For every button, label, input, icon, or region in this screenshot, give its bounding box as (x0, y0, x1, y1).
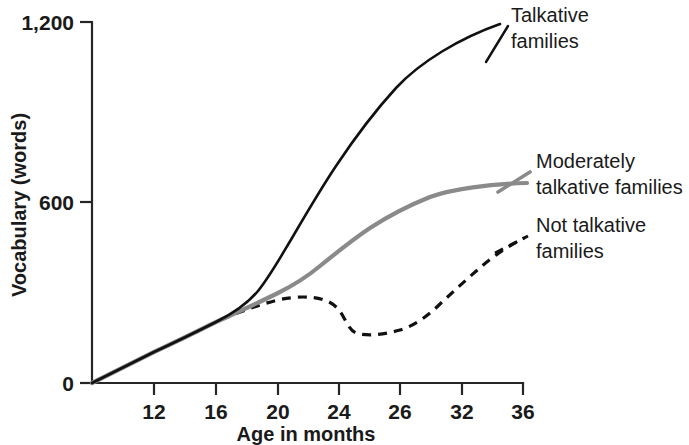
x-tick-label-26: 26 (388, 400, 411, 423)
series-label-not-talkative-line2: families (536, 240, 604, 262)
series-label-moderately-talkative-line1: Moderately (536, 150, 635, 172)
chart-axes (80, 22, 523, 395)
y-tick-label-1200: 1,200 (21, 11, 74, 34)
x-tick-label-16: 16 (204, 400, 227, 423)
x-tick-label-36: 36 (511, 400, 534, 423)
series-labels: Talkative families Moderately talkative … (511, 4, 683, 262)
series-leader-lines (486, 26, 530, 253)
x-tick-label-32: 32 (450, 400, 473, 423)
x-tick-label-20: 20 (266, 400, 289, 423)
line-chart: 1,200 600 0 12 16 20 24 26 32 36 Age in … (0, 0, 689, 445)
series-label-not-talkative-line1: Not talkative (536, 214, 646, 236)
series-label-talkative-line2: families (511, 30, 579, 52)
series-label-moderately-talkative-line2: talkative families (536, 176, 683, 198)
y-tick-label-600: 600 (39, 191, 74, 214)
series-line-talkative (92, 24, 500, 383)
chart-series-group (92, 24, 527, 383)
x-tick-label-12: 12 (142, 400, 165, 423)
x-tick-label-24: 24 (327, 400, 351, 423)
x-axis-title: Age in months (237, 423, 376, 445)
series-label-talkative-line1: Talkative (511, 4, 589, 26)
x-axis-tick-labels: 12 16 20 24 26 32 36 (142, 400, 534, 423)
vocabulary-growth-figure: 1,200 600 0 12 16 20 24 26 32 36 Age in … (0, 0, 689, 445)
series-line-not-talkative (92, 238, 524, 383)
y-axis-title: Vocabulary (words) (8, 113, 30, 297)
leader-line-talkative (486, 26, 508, 62)
y-tick-label-0: 0 (62, 372, 74, 395)
